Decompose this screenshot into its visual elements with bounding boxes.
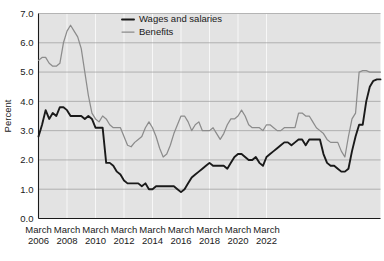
x-axis-tick-month: March	[139, 224, 165, 235]
y-axis-tick-labels: 0.01.02.03.04.05.06.07.0	[20, 8, 33, 224]
x-axis-tick-month: March	[111, 224, 137, 235]
y-axis-tick-label: 5.0	[20, 66, 33, 77]
x-axis-tick-year: 2012	[113, 235, 134, 246]
x-axis-tick-year: 2016	[170, 235, 191, 246]
legend-label-wages-and-salaries: Wages and salaries	[139, 13, 222, 24]
x-axis-tick-year: 2022	[256, 235, 277, 246]
y-axis-tick-label: 3.0	[20, 125, 33, 136]
y-axis-tick-label: 0.0	[20, 213, 33, 224]
x-axis-tick-year: 2008	[56, 235, 77, 246]
y-axis-title: Percent	[2, 99, 13, 132]
line-chart: 0.01.02.03.04.05.06.07.0 March2006March2…	[0, 0, 384, 261]
x-axis-tick-year: 2020	[227, 235, 248, 246]
x-axis-tick-month: March	[225, 224, 251, 235]
legend-label-benefits: Benefits	[139, 26, 174, 37]
x-axis-tick-labels: March2006March2008March2010March2012Marc…	[25, 224, 279, 246]
x-axis-tick-year: 2014	[142, 235, 163, 246]
y-axis-tick-label: 1.0	[20, 184, 33, 195]
x-axis-tick-month: March	[168, 224, 194, 235]
x-axis-tick-month: March	[82, 224, 108, 235]
y-axis-tick-label: 6.0	[20, 37, 33, 48]
y-axis-tick-label: 2.0	[20, 154, 33, 165]
y-axis-tick-label: 4.0	[20, 96, 33, 107]
x-axis-tick-month: March	[196, 224, 222, 235]
chart-container: 0.01.02.03.04.05.06.07.0 March2006March2…	[0, 0, 384, 261]
x-axis-tick-month: March	[54, 224, 80, 235]
y-axis-tick-label: 7.0	[20, 8, 33, 19]
x-axis-tick-year: 2010	[85, 235, 106, 246]
x-axis-tick-month: March	[25, 224, 51, 235]
x-axis-tick-month: March	[253, 224, 279, 235]
x-axis-tick-year: 2018	[199, 235, 220, 246]
x-axis-tick-year: 2006	[28, 235, 49, 246]
